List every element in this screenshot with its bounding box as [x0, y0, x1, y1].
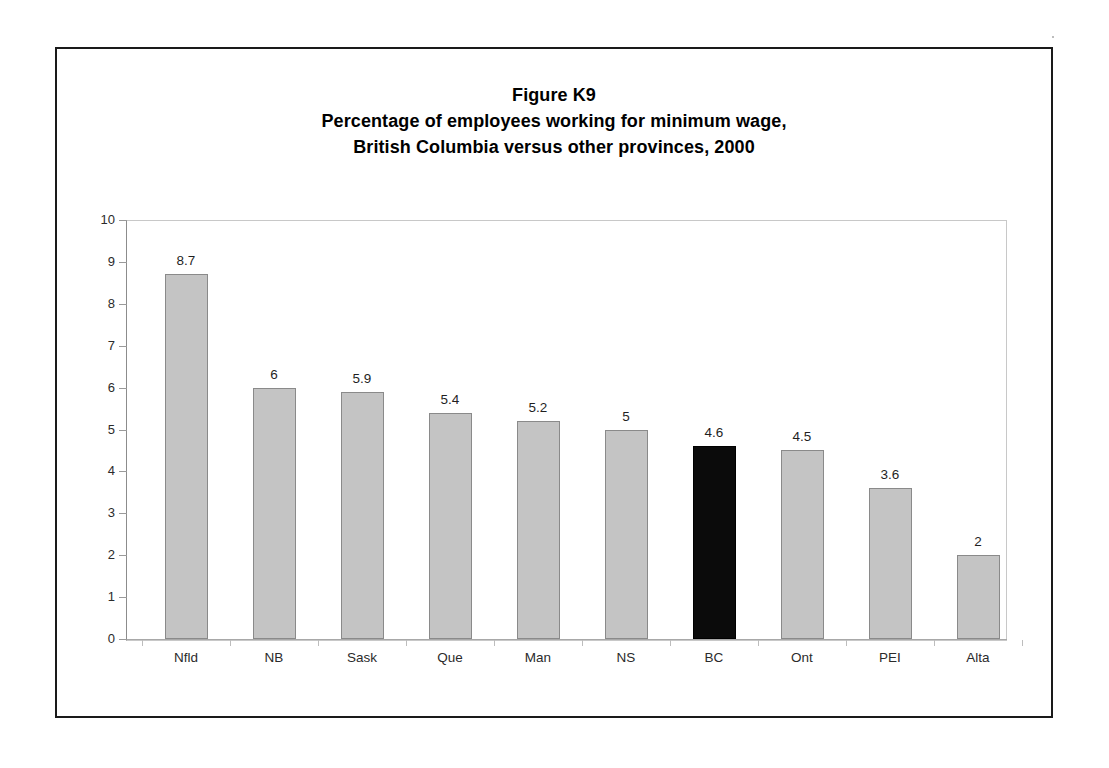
y-axis-tick-label: 5 — [87, 423, 115, 436]
x-axis-label-que: Que — [406, 650, 494, 665]
bar-que — [429, 413, 472, 639]
bar-value-label: 4.6 — [670, 426, 758, 440]
x-axis-label-ns: NS — [582, 650, 670, 665]
bar-alta — [957, 555, 1000, 639]
y-axis-tick — [119, 220, 127, 221]
chart-title-line-3: British Columbia versus other provinces,… — [57, 134, 1051, 160]
y-axis-tick — [119, 513, 127, 514]
figure-page: Figure K9 Percentage of employees workin… — [0, 0, 1109, 768]
x-axis-label-pei: PEI — [846, 650, 934, 665]
x-axis-tick — [934, 640, 935, 646]
x-axis-label-alta: Alta — [934, 650, 1022, 665]
bar-man — [517, 421, 560, 639]
bar-pei — [869, 488, 912, 639]
y-axis-tick-label: 9 — [87, 255, 115, 268]
scan-artifact-speck — [1052, 36, 1054, 38]
y-axis-tick-label: 7 — [87, 339, 115, 352]
bar-value-label: 5.4 — [406, 393, 494, 407]
x-axis-tick — [494, 640, 495, 646]
x-axis-label-ont: Ont — [758, 650, 846, 665]
bar-value-label: 2 — [934, 535, 1022, 549]
y-axis-tick-label: 10 — [87, 213, 115, 226]
x-axis-tick — [406, 640, 407, 646]
chart-title-line-2: Percentage of employees working for mini… — [57, 108, 1051, 134]
y-axis-tick-label: 3 — [87, 506, 115, 519]
bar-value-label: 3.6 — [846, 468, 934, 482]
y-axis-tick-label: 4 — [87, 464, 115, 477]
x-axis-tick — [758, 640, 759, 646]
y-axis-tick — [119, 262, 127, 263]
bar-nfld — [165, 274, 208, 639]
bar-value-label: 8.7 — [142, 254, 230, 268]
y-axis-tick — [119, 346, 127, 347]
y-axis-tick-label: 6 — [87, 381, 115, 394]
bar-value-label: 6 — [230, 368, 318, 382]
y-axis-tick — [119, 430, 127, 431]
bar-ont — [781, 450, 824, 639]
chart-title-line-1: Figure K9 — [57, 82, 1051, 108]
x-axis-label-bc: BC — [670, 650, 758, 665]
x-axis-tick — [582, 640, 583, 646]
bar-nb — [253, 388, 296, 639]
bar-value-label: 4.5 — [758, 430, 846, 444]
y-axis-tick — [119, 597, 127, 598]
y-axis-tick — [119, 471, 127, 472]
x-axis-tick — [230, 640, 231, 646]
y-axis-tick-label: 1 — [87, 590, 115, 603]
x-axis-label-nb: NB — [230, 650, 318, 665]
x-axis-label-man: Man — [494, 650, 582, 665]
y-axis-tick-label: 2 — [87, 548, 115, 561]
y-axis-tick-label: 0 — [87, 632, 115, 645]
x-axis-tick — [142, 640, 143, 646]
bar-value-label: 5.2 — [494, 401, 582, 415]
x-axis-tick — [1022, 640, 1023, 646]
x-axis-line — [126, 639, 1007, 640]
x-axis-tick — [846, 640, 847, 646]
x-axis-label-sask: Sask — [318, 650, 406, 665]
chart-title: Figure K9 Percentage of employees workin… — [57, 82, 1051, 160]
y-axis-tick — [119, 639, 127, 640]
x-axis-tick — [318, 640, 319, 646]
figure-border: Figure K9 Percentage of employees workin… — [55, 47, 1053, 718]
bar-sask — [341, 392, 384, 639]
bar-value-label: 5 — [582, 410, 670, 424]
y-axis-tick — [119, 304, 127, 305]
x-axis-tick — [670, 640, 671, 646]
bar-ns — [605, 430, 648, 640]
bar-bc — [693, 446, 736, 639]
y-axis-tick-label: 8 — [87, 297, 115, 310]
y-axis-tick — [119, 555, 127, 556]
y-axis-tick — [119, 388, 127, 389]
bar-value-label: 5.9 — [318, 372, 406, 386]
x-axis-label-nfld: Nfld — [142, 650, 230, 665]
